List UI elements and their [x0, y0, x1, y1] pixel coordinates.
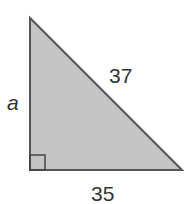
hypotenuse-label: 37: [109, 64, 132, 87]
right-triangle-diagram: 37 a 35: [0, 0, 191, 204]
triangle: [30, 18, 182, 170]
horizontal-leg-label: 35: [91, 182, 114, 204]
vertical-leg-label: a: [7, 91, 19, 114]
